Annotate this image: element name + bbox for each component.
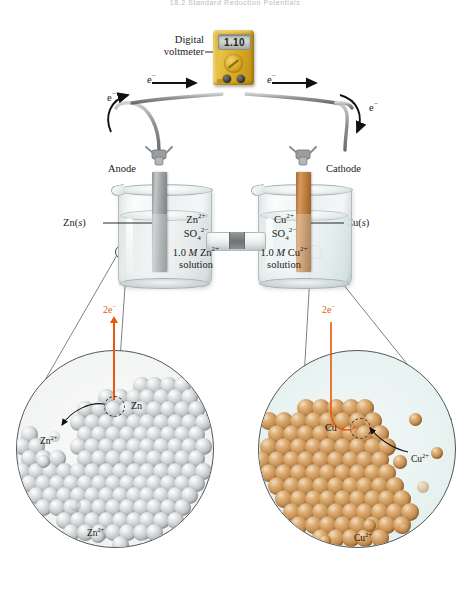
- voltmeter-dial[interactable]: [224, 54, 243, 73]
- copper-deposition-arrow: [0, 0, 470, 589]
- figure-canvas: 18.2 Standard Reduction Potentials: [0, 0, 470, 589]
- voltmeter-port-positive[interactable]: [236, 74, 246, 84]
- voltmeter-display: 1.10: [218, 34, 251, 50]
- copper-ion-label-1: Cu2+: [411, 452, 429, 464]
- copper-metal-label: Cu: [325, 422, 337, 433]
- voltmeter-port-negative[interactable]: [222, 74, 232, 84]
- copper-ion-label-2: Cu2+: [354, 531, 372, 543]
- digital-voltmeter[interactable]: 1.10: [213, 30, 254, 85]
- voltmeter-reading: 1.10: [224, 37, 245, 48]
